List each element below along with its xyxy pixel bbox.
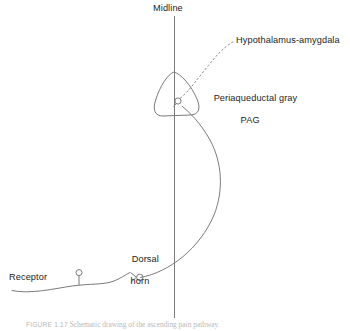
figure-caption-text: Schematic drawing of the ascending pain … — [70, 320, 220, 329]
label-periaqueductal-gray: Periaqueductal gray PAG — [203, 82, 297, 148]
pag-synapse-circle — [175, 98, 181, 104]
label-midline: Midline — [153, 3, 183, 14]
label-dorsal-horn-line2: horn — [118, 276, 162, 287]
label-pag-line2: PAG — [203, 115, 297, 126]
pag-outline-shape — [154, 72, 199, 116]
label-dorsal-horn-line1: Dorsal — [132, 254, 159, 264]
label-dorsal-horn: Dorsal horn — [118, 243, 162, 309]
figure-caption-number: FIGURE 1.17 — [26, 321, 68, 328]
label-pag-line1: Periaqueductal gray — [214, 93, 298, 103]
label-receptor: Receptor — [9, 272, 47, 283]
figure-container: Midline Hypothalamus-amygdala Periaquedu… — [0, 0, 350, 331]
receptor-circle — [76, 270, 82, 276]
pain-pathway-diagram — [0, 0, 350, 331]
label-hypothalamus-amygdala: Hypothalamus-amygdala — [236, 35, 340, 46]
figure-caption: FIGURE 1.17 Schematic drawing of the asc… — [26, 320, 326, 329]
